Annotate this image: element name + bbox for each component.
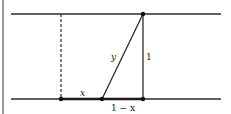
point-top bbox=[141, 12, 145, 16]
label-x: x bbox=[80, 88, 85, 98]
point-bottom-mid bbox=[100, 97, 104, 101]
label-one-minus-x: 1 − x bbox=[111, 103, 135, 113]
point-bottom-left bbox=[59, 97, 63, 101]
label-y: y bbox=[110, 52, 117, 62]
label-height: 1 bbox=[146, 52, 152, 62]
diagram-canvas: y 1 x 1 − x bbox=[0, 0, 231, 114]
segment-y bbox=[102, 14, 143, 99]
point-bottom-right bbox=[141, 97, 145, 101]
